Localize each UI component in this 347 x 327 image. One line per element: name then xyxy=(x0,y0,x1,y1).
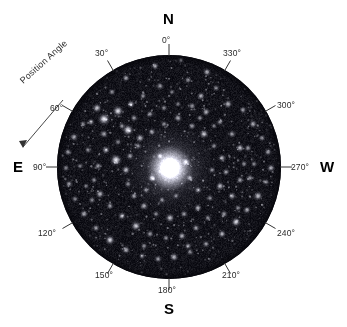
degree-label-330: 330° xyxy=(223,48,241,58)
degree-label-0: 0° xyxy=(162,35,170,45)
position-angle-annotation: Position Angle xyxy=(18,38,69,85)
degree-label-240: 240° xyxy=(277,228,295,238)
cardinal-west: W xyxy=(320,158,334,175)
degree-label-30: 30° xyxy=(95,48,108,58)
degree-label-300: 300° xyxy=(277,100,295,110)
tick-300 xyxy=(265,106,275,112)
cardinal-south: S xyxy=(164,300,174,317)
cardinal-north: N xyxy=(163,10,174,27)
degree-label-120: 120° xyxy=(38,228,56,238)
degree-label-180: 180° xyxy=(158,285,176,295)
degree-label-60: 60° xyxy=(50,103,63,113)
degree-label-210: 210° xyxy=(222,270,240,280)
degree-label-90: 90° xyxy=(33,162,46,172)
galaxy-field-canvas xyxy=(57,55,281,279)
degree-label-270: 270° xyxy=(291,162,309,172)
degree-label-150: 150° xyxy=(95,270,113,280)
position-angle-figure: Position Angle 0° 30° 60° 90° 120° 150° … xyxy=(0,0,347,327)
sky-field-image xyxy=(57,55,281,279)
cardinal-east: E xyxy=(13,158,23,175)
tick-240 xyxy=(265,223,275,229)
